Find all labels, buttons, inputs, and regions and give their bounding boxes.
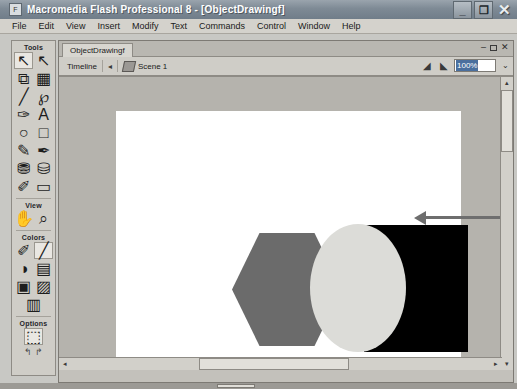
tools-section-label-tools: Tools xyxy=(12,44,55,51)
document-window-controls: – ✕ xyxy=(481,42,509,53)
gradient-transform-tool[interactable]: ▦ xyxy=(34,70,53,87)
tools-grid-tools: ↖↖⧉▦╱℘✑A○□✎✒⛃⛁✐▭ xyxy=(12,52,55,195)
menu-item-text[interactable]: Text xyxy=(164,21,193,31)
close-button[interactable]: ✕ xyxy=(495,1,514,17)
option-glyph-1[interactable]: ↱ xyxy=(35,347,43,357)
restore-button[interactable]: ❐ xyxy=(474,1,493,19)
subselection-tool[interactable]: ↖ xyxy=(34,52,53,69)
status-strip xyxy=(0,383,517,389)
tools-divider xyxy=(16,316,51,317)
window-controls: _ ❐ ✕ xyxy=(453,1,514,19)
zoom-dropdown-icon[interactable]: ⌄ xyxy=(502,61,509,70)
selection-tool[interactable]: ↖ xyxy=(14,52,33,69)
document-minimize-button[interactable]: – xyxy=(481,42,486,53)
options-extra-row: ↰↱ xyxy=(12,347,55,357)
timeline-divider xyxy=(102,60,103,72)
vertical-scroll-thumb[interactable] xyxy=(501,90,513,152)
menu-item-window[interactable]: Window xyxy=(292,21,336,31)
menu-item-control[interactable]: Control xyxy=(251,21,292,31)
gradient-button[interactable]: ▥ xyxy=(24,296,43,313)
edit-symbol-icon[interactable]: ◣ xyxy=(437,59,450,72)
menu-item-file[interactable]: File xyxy=(6,21,33,31)
light-circle-shape[interactable] xyxy=(310,224,406,352)
window-title: Macromedia Flash Professional 8 - [Objec… xyxy=(27,4,285,15)
scroll-right-button[interactable]: ▸ xyxy=(490,358,502,370)
edit-scene-icon[interactable]: ◢ xyxy=(420,59,433,72)
annotation-arrowhead xyxy=(414,211,426,225)
tools-section-label-options: Options xyxy=(12,320,55,327)
hand-tool[interactable]: ✋ xyxy=(14,210,33,227)
object-drawing-toggle[interactable]: ⬚ xyxy=(24,328,43,345)
menu-item-commands[interactable]: Commands xyxy=(193,21,251,31)
pencil-tool[interactable]: ✎ xyxy=(14,142,33,159)
document-tab[interactable]: ObjectDrawingf xyxy=(62,43,133,57)
option-glyph-0[interactable]: ↰ xyxy=(24,347,32,357)
fill-color-swatch[interactable]: ╱ xyxy=(34,242,53,259)
tools-section-label-colors: Colors xyxy=(12,234,55,241)
flash-application-window: F Macromedia Flash Professional 8 - [Obj… xyxy=(0,0,517,389)
timeline-label[interactable]: Timeline xyxy=(67,62,97,71)
timeline-right-controls: ◢ ◣ 100% ⌄ xyxy=(420,59,509,72)
free-transform-tool[interactable]: ⧉ xyxy=(14,70,33,87)
horizontal-scrollbar[interactable]: ◂ ▸ xyxy=(59,357,502,370)
tools-grid-colors: ✐╱◑▤▣▨▥ xyxy=(12,242,55,313)
timeline-collapse-icon[interactable]: ◂ xyxy=(108,62,112,71)
canvas-area[interactable]: ▴ ▾ ◂ ▸ xyxy=(59,76,513,370)
menu-bar: FileEditViewInsertModifyTextCommandsCont… xyxy=(0,19,517,34)
tools-panel: Tools↖↖⧉▦╱℘✑A○□✎✒⛃⛁✐▭View✋⌕Colors✐╱◑▤▣▨▥… xyxy=(11,40,56,376)
menu-item-insert[interactable]: Insert xyxy=(91,21,126,31)
text-tool[interactable]: A xyxy=(34,106,53,123)
stroke-color-swatch[interactable]: ✐ xyxy=(14,242,33,259)
tools-grid-view: ✋⌕ xyxy=(12,210,55,227)
scene-indicator[interactable]: Scene 1 xyxy=(123,61,167,72)
document-close-button[interactable]: ✕ xyxy=(501,42,509,53)
flash-app-icon: F xyxy=(9,3,22,16)
zoom-input[interactable]: 100% xyxy=(454,59,496,72)
timeline-divider-2 xyxy=(117,60,118,72)
no-color-button[interactable]: ▣ xyxy=(14,278,33,295)
timeline-bar: Timeline ◂ Scene 1 ◢ ◣ 100% ⌄ xyxy=(59,57,513,76)
tools-section-label-view: View xyxy=(12,202,55,209)
lasso-tool[interactable]: ℘ xyxy=(34,88,53,105)
minimize-button[interactable]: _ xyxy=(453,1,472,19)
line-tool[interactable]: ╱ xyxy=(14,88,33,105)
ink-bottle-tool[interactable]: ⛃ xyxy=(14,160,33,177)
oval-tool[interactable]: ○ xyxy=(14,124,33,141)
annotation-line xyxy=(426,216,511,219)
eyedropper-tool[interactable]: ✐ xyxy=(14,178,33,195)
scene-label: Scene 1 xyxy=(138,62,167,71)
document-restore-button[interactable] xyxy=(490,45,497,51)
tools-divider xyxy=(16,198,51,199)
rectangle-tool[interactable]: □ xyxy=(34,124,53,141)
menu-item-edit[interactable]: Edit xyxy=(33,21,61,31)
scroll-down-button[interactable]: ▾ xyxy=(501,358,513,370)
scene-icon xyxy=(122,61,136,72)
pen-tool[interactable]: ✑ xyxy=(14,106,33,123)
zoom-tool[interactable]: ⌕ xyxy=(34,210,53,227)
document-window: ObjectDrawingf – ✕ Timeline ◂ Scene 1 ◢ … xyxy=(58,40,514,383)
paint-bucket-tool[interactable]: ⛁ xyxy=(34,160,53,177)
tools-grid-options: ⬚ xyxy=(12,328,55,345)
menu-item-view[interactable]: View xyxy=(60,21,91,31)
status-nub xyxy=(217,384,255,388)
horizontal-scroll-thumb[interactable] xyxy=(199,358,349,370)
tools-divider xyxy=(16,230,51,231)
title-bar: F Macromedia Flash Professional 8 - [Obj… xyxy=(0,0,517,19)
swap-colors-button[interactable]: ▤ xyxy=(34,260,53,277)
stage[interactable] xyxy=(116,111,461,359)
scroll-left-button[interactable]: ◂ xyxy=(59,358,71,370)
menu-item-help[interactable]: Help xyxy=(336,21,367,31)
document-tab-bar: ObjectDrawingf – ✕ xyxy=(59,41,513,57)
vertical-scrollbar[interactable]: ▴ ▾ xyxy=(500,77,513,370)
color-picker-button[interactable]: ▨ xyxy=(34,278,53,295)
black-and-white-button[interactable]: ◑ xyxy=(14,260,33,277)
eraser-tool[interactable]: ▭ xyxy=(34,178,53,195)
brush-tool[interactable]: ✒ xyxy=(34,142,53,159)
zoom-value: 100% xyxy=(456,60,478,71)
scroll-up-button[interactable]: ▴ xyxy=(501,77,513,89)
menu-item-modify[interactable]: Modify xyxy=(126,21,165,31)
